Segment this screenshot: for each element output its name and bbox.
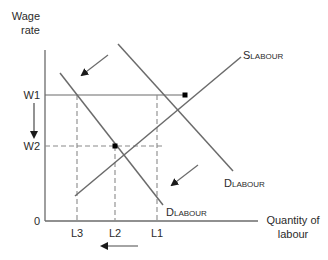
x-axis-label-line2: labour [260, 228, 326, 240]
supply-curve [75, 57, 241, 196]
demand-shift-arrow-bottom [172, 165, 198, 185]
tick-l2: L2 [105, 227, 125, 239]
y-axis-label-line1: Wage [4, 10, 40, 22]
tick-l1: L1 [147, 227, 167, 239]
tick-w1: W1 [10, 89, 40, 101]
demand-original-label-main: D [224, 177, 232, 189]
demand-shifted-label-main: D [166, 206, 174, 218]
demand-original-label: DLABOUR [224, 177, 265, 191]
tick-w2: W2 [10, 140, 40, 152]
demand-shift-arrow-top [82, 55, 108, 75]
equilibrium-point-original [183, 93, 188, 98]
demand-shifted-label-sub: LABOUR [174, 209, 207, 218]
demand-original-label-sub: LABOUR [232, 180, 265, 189]
supply-curve-label: SLABOUR [243, 49, 283, 63]
supply-curve-label-sub: LABOUR [250, 52, 283, 61]
demand-curve-original [118, 44, 233, 171]
y-axis-label-line2: rate [4, 24, 40, 36]
origin-label: 0 [34, 215, 40, 227]
y-axis-label: Wage rate [4, 10, 40, 36]
demand-curve-shifted [60, 73, 163, 205]
x-axis-label-line1: Quantity of [260, 214, 326, 226]
equilibrium-point-new [113, 144, 118, 149]
x-axis-label: Quantity of labour [260, 214, 326, 240]
demand-shifted-label: DLABOUR [166, 206, 207, 220]
tick-l3: L3 [67, 227, 87, 239]
